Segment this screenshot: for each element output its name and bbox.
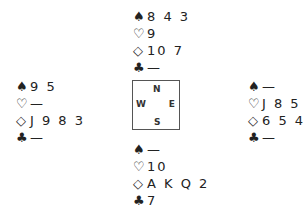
club-icon: ♣: [133, 192, 147, 209]
diamond-icon: ◇: [16, 112, 30, 129]
east-hand: ♠— ♡J 8 5 ◇6 5 4 ♣—: [248, 78, 305, 146]
west-spades-row: ♠9 5: [16, 78, 85, 95]
north-spades: 8 4 3: [147, 8, 190, 25]
north-hand: ♠8 4 3 ♡9 ◇10 7 ♣—: [133, 8, 190, 76]
east-hearts-row: ♡J 8 5: [248, 95, 305, 112]
diamond-icon: ◇: [248, 112, 262, 129]
west-hand: ♠9 5 ♡— ◇J 9 8 3 ♣—: [16, 78, 85, 146]
heart-icon: ♡: [133, 158, 147, 175]
south-diamonds-row: ◇A K Q 2: [133, 175, 209, 192]
east-spades-row: ♠—: [248, 78, 305, 95]
west-diamonds: J 9 8 3: [30, 112, 85, 129]
east-clubs-row: ♣—: [248, 129, 305, 146]
club-icon: ♣: [248, 129, 262, 146]
west-clubs: —: [30, 129, 45, 146]
south-hearts: 10: [147, 158, 168, 175]
spade-icon: ♠: [16, 78, 30, 95]
west-clubs-row: ♣—: [16, 129, 85, 146]
north-hearts-row: ♡9: [133, 25, 190, 42]
compass-box: N W E S: [132, 80, 180, 130]
east-diamonds-row: ◇6 5 4: [248, 112, 305, 129]
compass-south-label: S: [154, 117, 160, 127]
south-hearts-row: ♡10: [133, 158, 209, 175]
north-diamonds: 10 7: [147, 42, 184, 59]
east-diamonds: 6 5 4: [262, 112, 305, 129]
east-spades: —: [262, 78, 277, 95]
diamond-icon: ◇: [133, 175, 147, 192]
west-hearts-row: ♡—: [16, 95, 85, 112]
diamond-icon: ◇: [133, 42, 147, 59]
club-icon: ♣: [133, 59, 147, 76]
south-clubs: 7: [147, 192, 157, 209]
north-diamonds-row: ◇10 7: [133, 42, 190, 59]
west-hearts: —: [30, 95, 45, 112]
heart-icon: ♡: [133, 25, 147, 42]
compass-east-label: E: [169, 99, 175, 109]
south-diamonds: A K Q 2: [147, 175, 209, 192]
north-spades-row: ♠8 4 3: [133, 8, 190, 25]
east-hearts: J 8 5: [262, 95, 301, 112]
north-hearts: 9: [147, 25, 157, 42]
heart-icon: ♡: [16, 95, 30, 112]
compass-west-label: W: [136, 99, 146, 109]
west-diamonds-row: ◇J 9 8 3: [16, 112, 85, 129]
compass-north-label: N: [153, 84, 161, 94]
west-spades: 9 5: [30, 78, 57, 95]
south-spades: —: [147, 141, 162, 158]
spade-icon: ♠: [133, 8, 147, 25]
north-clubs: —: [147, 59, 162, 76]
south-spades-row: ♠—: [133, 141, 209, 158]
east-clubs: —: [262, 129, 277, 146]
club-icon: ♣: [16, 129, 30, 146]
heart-icon: ♡: [248, 95, 262, 112]
north-clubs-row: ♣—: [133, 59, 190, 76]
spade-icon: ♠: [248, 78, 262, 95]
spade-icon: ♠: [133, 141, 147, 158]
south-clubs-row: ♣7: [133, 192, 209, 209]
south-hand: ♠— ♡10 ◇A K Q 2 ♣7: [133, 141, 209, 209]
